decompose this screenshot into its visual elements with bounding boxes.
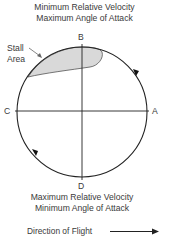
point-label-c: C xyxy=(4,106,10,116)
direction-arrow-head-icon xyxy=(152,229,159,235)
direction-of-flight-label: Direction of Flight xyxy=(27,226,92,237)
bottom-caption: Maximum Relative Velocity Minimum Angle … xyxy=(0,192,164,214)
stall-pointer-arrowhead-icon xyxy=(37,53,42,58)
bottom-caption-line1: Maximum Relative Velocity xyxy=(0,192,164,203)
point-label-a: A xyxy=(152,106,158,116)
stall-area-region xyxy=(28,47,102,77)
bottom-caption-line2: Minimum Angle of Attack xyxy=(0,203,164,214)
point-label-d: D xyxy=(78,181,84,191)
point-label-b: B xyxy=(78,32,84,42)
